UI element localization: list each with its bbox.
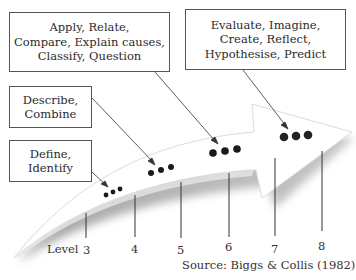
tick-label-4: 4 [131,242,138,256]
box-line: Describe, [23,93,78,108]
tick-label-6: 6 [225,240,232,254]
box-line: Create, Reflect, [205,32,326,47]
box-line: Hypothesise, Predict [205,47,326,62]
tick-label-8: 8 [318,239,325,253]
box-line: Combine [23,107,78,122]
tick-label-5: 5 [177,243,184,257]
box-describe-combine: Describe, Combine [9,86,92,128]
box-line: Classify, Question [14,49,165,64]
tick-label-7: 7 [271,242,278,256]
box-line: Define, [28,147,73,162]
source-citation: Source: Biggs & Collis (1982) [182,258,355,272]
box-define-identify: Define, Identify [9,140,92,182]
box-line: Apply, Relate, [14,20,165,35]
box-line: Evaluate, Imagine, [205,18,326,33]
box-evaluate-imagine: Evaluate, Imagine, Create, Reflect, Hypo… [185,9,346,70]
axis-label-level: Level [47,242,78,256]
box-line: Identify [28,161,73,176]
box-apply-relate: Apply, Relate, Compare, Explain causes, … [9,12,170,72]
box-line: Compare, Explain causes, [14,35,165,50]
tick-label-3: 3 [83,243,90,257]
